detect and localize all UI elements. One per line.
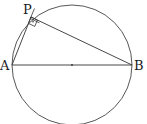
segment-pb: [31, 17, 132, 65]
label-b: B: [134, 58, 144, 73]
geometry-diagram: P A B: [0, 0, 147, 124]
segment-ap: [12, 17, 31, 65]
center-point: [71, 64, 73, 66]
label-a: A: [0, 58, 10, 73]
label-p: P: [23, 2, 32, 17]
right-angle-dot: [32, 21, 34, 23]
